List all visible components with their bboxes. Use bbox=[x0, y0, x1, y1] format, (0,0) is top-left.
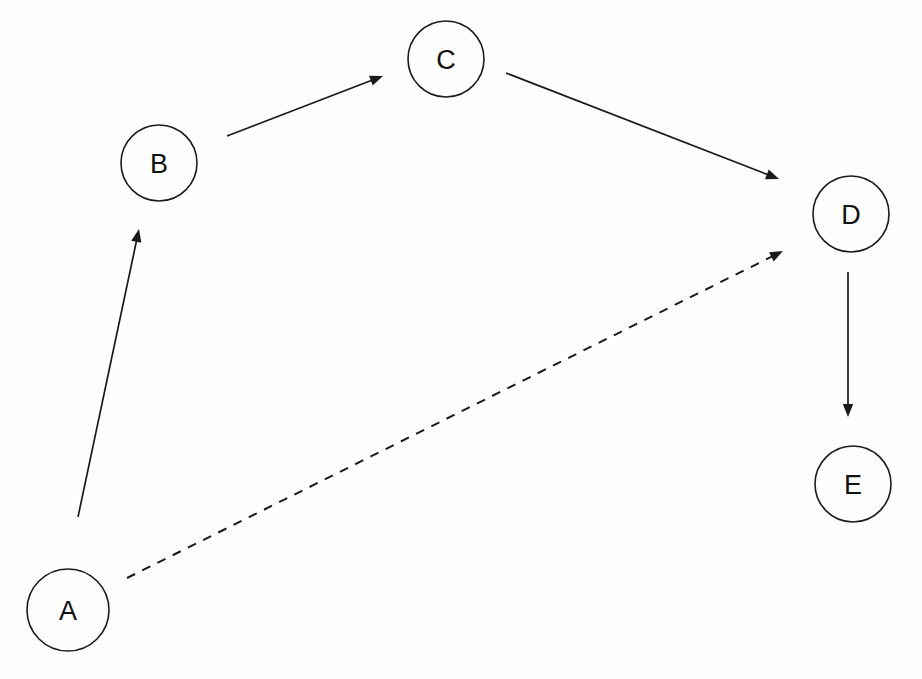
arrowhead-b-c bbox=[369, 76, 383, 86]
edge-line-b-c bbox=[227, 80, 372, 136]
node-a[interactable]: A bbox=[27, 569, 109, 651]
node-label-b: B bbox=[150, 149, 168, 179]
node-label-c: C bbox=[436, 45, 456, 75]
node-label-e: E bbox=[844, 470, 862, 500]
edge-line-c-d bbox=[506, 73, 768, 175]
edge-d-e bbox=[843, 272, 853, 417]
arrowhead-a-b bbox=[131, 229, 141, 243]
graph-svg: ABCDE bbox=[0, 0, 922, 679]
node-d[interactable]: D bbox=[813, 176, 889, 252]
diagram-canvas: ABCDE bbox=[0, 0, 922, 679]
nodes-layer: ABCDE bbox=[27, 21, 891, 651]
node-label-d: D bbox=[841, 200, 861, 230]
arrowhead-a-d bbox=[769, 251, 783, 261]
arrowhead-c-d bbox=[765, 169, 779, 179]
node-e[interactable]: E bbox=[815, 446, 891, 522]
edge-c-d bbox=[506, 73, 779, 179]
edge-b-c bbox=[227, 76, 383, 136]
node-label-a: A bbox=[59, 596, 77, 626]
node-c[interactable]: C bbox=[408, 21, 484, 97]
edge-a-b bbox=[78, 229, 141, 517]
arrowhead-d-e bbox=[843, 404, 853, 417]
edge-line-a-d bbox=[127, 256, 772, 578]
edge-line-a-b bbox=[78, 241, 137, 517]
node-b[interactable]: B bbox=[121, 125, 197, 201]
edge-a-d bbox=[127, 251, 783, 578]
